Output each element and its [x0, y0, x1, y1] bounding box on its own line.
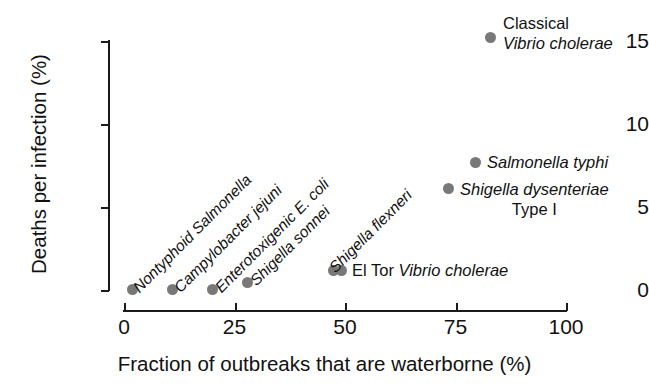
- x-tick-0: [124, 303, 126, 311]
- point-classical-vibrio-cholerae[interactable]: [485, 32, 496, 43]
- x-tick-label-0: 0: [84, 316, 164, 337]
- label-classical-species: Vibrio cholerae: [503, 34, 613, 54]
- scatter-plot: 15 10 5 0 0 25 50 75 100 Fraction of out…: [0, 0, 649, 392]
- x-tick-25: [235, 303, 237, 311]
- point-salmonella-typhi[interactable]: [470, 157, 481, 168]
- label-classical-prefix: Classical: [503, 14, 613, 34]
- y-tick-5: [101, 207, 109, 209]
- label-shigella-dysenteriae-type: Type I: [460, 200, 609, 220]
- label-el-tor-species: Vibrio cholerae: [398, 261, 508, 279]
- label-shigella-dysenteriae-name: Shigella dysenteriae: [460, 180, 609, 198]
- label-salmonella-typhi: Salmonella typhi: [487, 153, 608, 172]
- x-tick-label-50: 50: [305, 316, 385, 337]
- x-tick-label-25: 25: [195, 316, 275, 337]
- x-tick-75: [456, 303, 458, 311]
- y-tick-label-0: 0: [553, 279, 649, 300]
- x-axis-title: Fraction of outbreaks that are waterborn…: [0, 352, 649, 376]
- x-tick-label-75: 75: [416, 316, 496, 337]
- y-axis-line: [108, 40, 110, 291]
- y-tick-15: [101, 41, 109, 43]
- x-tick-50: [345, 303, 347, 311]
- y-tick-0: [101, 290, 109, 292]
- label-el-tor-vibrio-cholerae: El Tor Vibrio cholerae: [352, 261, 508, 280]
- label-shigella-dysenteriae: Shigella dysenteriae Type I: [460, 180, 609, 219]
- point-shigella-dysenteriae[interactable]: [443, 183, 454, 194]
- y-tick-10: [101, 124, 109, 126]
- x-tick-100: [566, 303, 568, 311]
- x-tick-label-100: 100: [526, 316, 606, 337]
- y-axis-title: Deaths per infection (%): [27, 29, 51, 299]
- y-tick-label-10: 10: [553, 113, 649, 134]
- label-el-tor-prefix: El Tor: [352, 261, 398, 279]
- label-classical-vibrio-cholerae: Classical Vibrio cholerae: [503, 14, 613, 53]
